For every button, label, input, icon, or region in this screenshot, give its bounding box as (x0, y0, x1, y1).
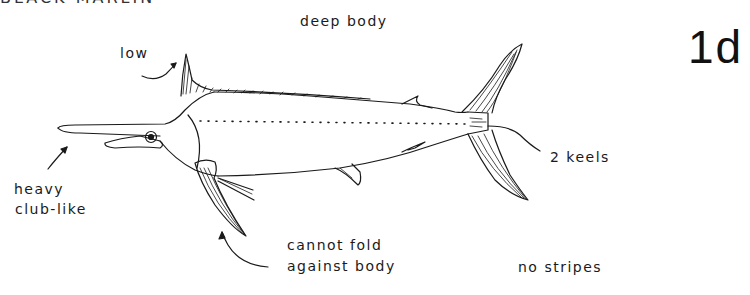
label-heavy-line2: club-like (15, 200, 87, 218)
fish-body (58, 92, 488, 176)
cannot-fold-arrow-icon (222, 232, 268, 267)
label-no-stripes: no stripes (518, 258, 602, 276)
label-cannot-fold-line2: against body (287, 257, 396, 275)
low-arrow-icon (142, 63, 176, 79)
label-heavy-line1: heavy (14, 180, 64, 198)
pectoral-fin (195, 160, 254, 236)
label-keels: 2 keels (550, 148, 610, 166)
second-anal-fin (402, 142, 425, 152)
label-cannot-fold-line1: cannot fold (287, 236, 382, 254)
label-deep-body: deep body (300, 12, 388, 30)
label-low: low (120, 44, 148, 62)
dorsal-fin (181, 54, 370, 99)
figure-number: 1d (688, 22, 743, 72)
keels-leader-line (488, 126, 540, 151)
